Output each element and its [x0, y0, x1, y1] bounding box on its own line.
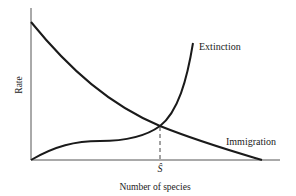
- x-axis-title: Number of species: [119, 182, 191, 192]
- chart-svg: Extinction Immigration Ŝ Number of speci…: [0, 0, 296, 196]
- equilibrium-tick-label: Ŝ: [158, 163, 163, 174]
- extinction-label: Extinction: [199, 41, 241, 52]
- species-equilibrium-chart: Extinction Immigration Ŝ Number of speci…: [0, 0, 296, 196]
- y-axis-title: Rate: [14, 76, 24, 93]
- immigration-label: Immigration: [226, 136, 276, 147]
- extinction-curve: [31, 43, 193, 160]
